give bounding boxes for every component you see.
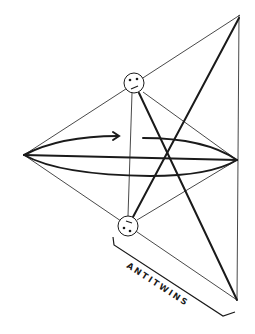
antitwins-bracket	[113, 237, 235, 316]
lens-upper-arc-right	[143, 138, 237, 160]
bottom-twin-head	[118, 216, 138, 236]
line-top-twin-to-right	[143, 92, 237, 160]
top-twin-eye-left	[129, 79, 132, 82]
line-top-twin-to-bottom-apex	[139, 93, 237, 300]
lens-axis	[24, 155, 237, 160]
line-bottom-twin-to-right	[137, 160, 237, 220]
thick-lines	[24, 18, 239, 300]
top-twin	[124, 73, 144, 93]
line-right-vertical	[237, 15, 239, 300]
top-twin-eye-right	[136, 78, 139, 81]
line-top-twin-down	[128, 93, 132, 216]
bottom-twin	[118, 216, 138, 236]
top-twin-head	[124, 73, 144, 93]
line-bottom-twin-to-top-apex	[133, 18, 239, 217]
bottom-twin-eye-left	[123, 227, 126, 230]
antitwins-diagram: ANTITWINS	[0, 0, 255, 334]
antitwins-label: ANTITWINS	[125, 260, 191, 308]
bottom-twin-eye-right	[129, 230, 132, 233]
